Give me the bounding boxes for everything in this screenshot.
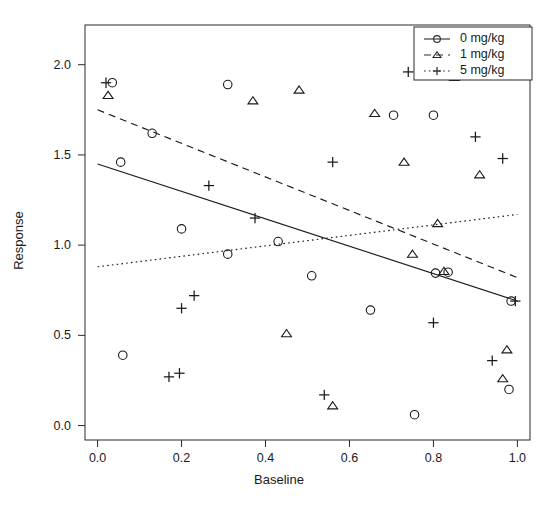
marker-circle bbox=[224, 250, 232, 258]
x-axis-title: Baseline bbox=[0, 472, 558, 487]
marker-circle bbox=[366, 306, 374, 314]
marker-circle bbox=[410, 411, 418, 419]
marker-triangle bbox=[294, 86, 304, 93]
marker-triangle bbox=[498, 375, 508, 382]
x-tick-label: 0.6 bbox=[341, 451, 358, 465]
legend-item-5-mg-kg: 5 mg/kg bbox=[460, 63, 504, 77]
x-tick-label: 1.0 bbox=[509, 451, 526, 465]
marker-circle bbox=[429, 111, 437, 119]
scatter-plot-figure: 0 mg/kg1 mg/kg5 mg/kg Baseline Response … bbox=[0, 0, 558, 506]
marker-triangle bbox=[370, 109, 380, 116]
y-tick-label: 1.0 bbox=[13, 238, 71, 252]
marker-circle bbox=[274, 237, 282, 245]
y-tick-label: 2.0 bbox=[13, 58, 71, 72]
x-tick-label: 0.4 bbox=[257, 451, 274, 465]
marker-triangle bbox=[433, 219, 443, 226]
marker-triangle bbox=[475, 171, 485, 178]
marker-triangle bbox=[502, 346, 512, 353]
marker-triangle bbox=[103, 91, 113, 98]
marker-circle bbox=[116, 158, 124, 166]
marker-circle bbox=[389, 111, 397, 119]
x-tick-label: 0.2 bbox=[173, 451, 190, 465]
legend-item-1-mg-kg: 1 mg/kg bbox=[460, 47, 504, 61]
marker-triangle bbox=[407, 250, 417, 257]
marker-circle bbox=[505, 385, 513, 393]
marker-circle bbox=[307, 272, 315, 280]
marker-triangle bbox=[282, 329, 292, 336]
series-0-mg-kg bbox=[108, 79, 515, 419]
marker-triangle bbox=[248, 97, 258, 104]
regression-lines bbox=[98, 110, 518, 301]
marker-circle bbox=[119, 351, 127, 359]
legend-item-0-mg-kg: 0 mg/kg bbox=[460, 31, 504, 45]
x-tick-label: 0.8 bbox=[425, 451, 442, 465]
marker-triangle bbox=[399, 158, 409, 165]
marker-circle bbox=[224, 80, 232, 88]
y-tick-label: 0.5 bbox=[13, 328, 71, 342]
y-tick-label: 1.5 bbox=[13, 148, 71, 162]
x-tick-label: 0.0 bbox=[89, 451, 106, 465]
marker-circle bbox=[177, 225, 185, 233]
tick-marks bbox=[78, 65, 517, 447]
data-point-markers bbox=[101, 67, 521, 419]
y-tick-label: 0.0 bbox=[13, 419, 71, 433]
marker-triangle bbox=[328, 402, 338, 409]
